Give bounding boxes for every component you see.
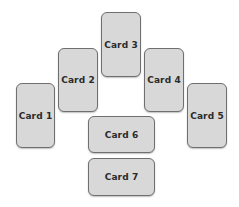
card-label: Card 5 [190, 111, 224, 121]
card-1[interactable]: Card 1 [16, 83, 55, 148]
card-3[interactable]: Card 3 [101, 12, 141, 77]
card-5[interactable]: Card 5 [187, 83, 227, 148]
card-7[interactable]: Card 7 [88, 158, 155, 196]
card-2[interactable]: Card 2 [58, 48, 98, 112]
card-label: Card 7 [105, 172, 139, 182]
card-label: Card 4 [147, 75, 181, 85]
card-label: Card 3 [104, 40, 138, 50]
card-6[interactable]: Card 6 [88, 116, 155, 153]
card-label: Card 1 [19, 111, 53, 121]
card-label: Card 2 [61, 75, 95, 85]
card-4[interactable]: Card 4 [144, 48, 184, 112]
card-label: Card 6 [105, 130, 139, 140]
